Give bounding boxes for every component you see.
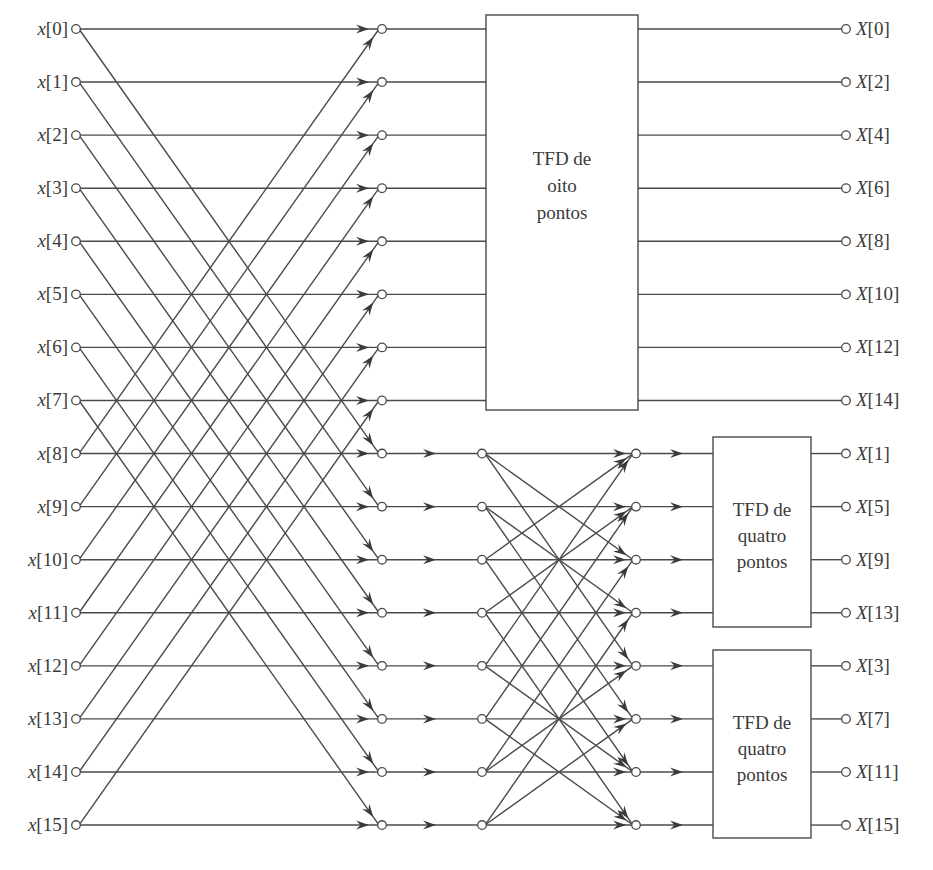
dft-block-label: TFD de xyxy=(533,148,592,169)
stage3-node xyxy=(632,715,641,724)
stage1-node xyxy=(378,555,387,564)
input-node xyxy=(72,715,81,724)
input-node xyxy=(72,662,81,671)
arrow-icon xyxy=(362,143,373,156)
input-label: x[4] xyxy=(36,230,68,251)
arrow-icon xyxy=(613,544,626,555)
stage2-node xyxy=(478,768,487,777)
dft-block-label: oito xyxy=(547,175,577,196)
stage3-node xyxy=(632,608,641,617)
output-node xyxy=(842,290,851,299)
arrow-icon xyxy=(613,670,626,681)
stage1-node xyxy=(378,396,387,405)
output-label: X[1] xyxy=(855,443,890,464)
dft-block-label: quatro xyxy=(738,525,787,546)
output-node xyxy=(842,555,851,564)
output-node xyxy=(842,237,851,246)
input-label: x[7] xyxy=(36,389,68,410)
output-label: X[12] xyxy=(855,336,899,357)
arrow-icon xyxy=(362,485,373,498)
input-node xyxy=(72,290,81,299)
dft-block-label: TFD de xyxy=(733,712,792,733)
dft-block-label: quatro xyxy=(738,738,787,759)
input-label: x[10] xyxy=(27,549,68,570)
output-label: X[9] xyxy=(855,549,890,570)
input-node xyxy=(72,821,81,830)
arrow-icon xyxy=(362,196,373,209)
output-label: X[2] xyxy=(855,71,890,92)
input-node xyxy=(72,555,81,564)
arrow-icon xyxy=(362,37,373,50)
stage2-node xyxy=(478,715,487,724)
output-label: X[15] xyxy=(855,814,899,835)
stage1-node xyxy=(378,343,387,352)
stage1-node xyxy=(378,237,387,246)
output-label: X[0] xyxy=(855,18,890,39)
output-node xyxy=(842,662,851,671)
arrow-icon xyxy=(362,644,373,657)
input-node xyxy=(72,184,81,193)
input-label: x[8] xyxy=(36,443,68,464)
output-label: X[11] xyxy=(855,761,899,782)
input-node xyxy=(72,608,81,617)
input-node xyxy=(72,25,81,34)
input-label: x[12] xyxy=(27,655,68,676)
output-node xyxy=(842,715,851,724)
output-node xyxy=(842,608,851,617)
stage1-node xyxy=(378,715,387,724)
input-node xyxy=(72,449,81,458)
input-label: x[15] xyxy=(27,814,68,835)
stage1-node xyxy=(378,131,387,140)
output-node xyxy=(842,768,851,777)
stage1-node xyxy=(378,608,387,617)
stage1-node xyxy=(378,25,387,34)
output-label: X[14] xyxy=(855,389,899,410)
input-label: x[2] xyxy=(36,124,68,145)
input-label: x[5] xyxy=(36,283,68,304)
stage1-node xyxy=(378,449,387,458)
arrow-icon xyxy=(617,566,628,579)
arrow-icon xyxy=(362,356,373,369)
arrow-icon xyxy=(362,591,373,604)
arrow-icon xyxy=(362,751,373,764)
stage2-node xyxy=(478,662,487,671)
arrow-icon xyxy=(362,409,373,422)
input-node xyxy=(72,396,81,405)
output-label: X[13] xyxy=(855,602,899,623)
input-label: x[13] xyxy=(27,708,68,729)
stage3-node xyxy=(632,555,641,564)
arrow-icon xyxy=(362,804,373,817)
output-node xyxy=(842,449,851,458)
stage3-node xyxy=(632,768,641,777)
input-label: x[3] xyxy=(36,177,68,198)
arrow-icon xyxy=(613,723,626,734)
stage1-node xyxy=(378,662,387,671)
stage2-node xyxy=(478,502,487,511)
stage1-node xyxy=(378,78,387,87)
output-label: X[10] xyxy=(855,283,899,304)
dft-block-label: pontos xyxy=(737,551,788,572)
input-label: x[1] xyxy=(36,71,68,92)
output-node xyxy=(842,184,851,193)
stage3-node xyxy=(632,502,641,511)
dft-block-label: pontos xyxy=(737,764,788,785)
input-node xyxy=(72,237,81,246)
input-node xyxy=(72,502,81,511)
dft-block-label: pontos xyxy=(537,202,588,223)
stage2-node xyxy=(478,821,487,830)
arrow-icon xyxy=(362,303,373,316)
stage1-node xyxy=(378,821,387,830)
stage2-node xyxy=(478,555,487,564)
dft-block-label: TFD de xyxy=(733,499,792,520)
output-label: X[8] xyxy=(855,230,890,251)
arrow-icon xyxy=(617,646,628,659)
output-node xyxy=(842,25,851,34)
output-node xyxy=(842,502,851,511)
output-node xyxy=(842,131,851,140)
input-node xyxy=(72,343,81,352)
output-node xyxy=(842,78,851,87)
stage2-node xyxy=(478,608,487,617)
output-label: X[6] xyxy=(855,177,890,198)
output-node xyxy=(842,821,851,830)
input-node xyxy=(72,131,81,140)
